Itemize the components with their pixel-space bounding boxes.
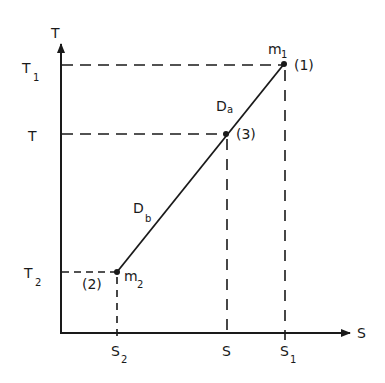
svg-text:D: D bbox=[216, 98, 227, 114]
x-tick-S2: S 2 bbox=[111, 343, 127, 365]
svg-text:2: 2 bbox=[137, 279, 143, 290]
axes bbox=[60, 44, 350, 334]
point-3-label: (3) bbox=[236, 126, 256, 142]
svg-text:a: a bbox=[227, 104, 233, 115]
y-tick-T: T bbox=[27, 128, 37, 144]
svg-text:D: D bbox=[133, 200, 144, 216]
svg-text:1: 1 bbox=[290, 354, 296, 365]
point-1-marker bbox=[281, 61, 287, 67]
x-tick-S1: S 1 bbox=[280, 343, 296, 365]
svg-text:S: S bbox=[111, 343, 120, 359]
segment-Da-label: D a bbox=[216, 98, 233, 115]
svg-text:m: m bbox=[268, 41, 282, 57]
point-1-label: (1) bbox=[294, 57, 314, 73]
y-axis-label: T bbox=[50, 25, 60, 41]
mixing-line bbox=[117, 64, 284, 272]
point-3-marker bbox=[223, 131, 229, 137]
point-2-marker bbox=[114, 269, 120, 275]
y-tick-T1: T 1 bbox=[21, 60, 39, 83]
y-tick-T2: T 2 bbox=[23, 265, 41, 288]
point-1-mass-label: m 1 bbox=[268, 41, 287, 60]
x-tick-S: S bbox=[222, 343, 231, 359]
svg-text:2: 2 bbox=[35, 277, 41, 288]
svg-text:b: b bbox=[145, 213, 151, 224]
segment-Db-label: D b bbox=[133, 200, 151, 224]
svg-text:2: 2 bbox=[121, 354, 127, 365]
svg-text:m: m bbox=[124, 268, 138, 284]
svg-text:1: 1 bbox=[33, 72, 39, 83]
ts-mixing-diagram: T S T 1 T T 2 S 2 S S 1 m 1 (1) bbox=[0, 0, 385, 383]
svg-text:S: S bbox=[222, 343, 231, 359]
point-2-label: (2) bbox=[82, 276, 102, 292]
svg-text:1: 1 bbox=[281, 49, 287, 60]
x-axis-label: S bbox=[357, 325, 366, 341]
svg-text:T: T bbox=[23, 265, 33, 281]
svg-text:T: T bbox=[27, 128, 37, 144]
svg-text:S: S bbox=[280, 343, 289, 359]
point-2-mass-label: m 2 bbox=[124, 268, 143, 290]
svg-text:T: T bbox=[21, 60, 31, 76]
